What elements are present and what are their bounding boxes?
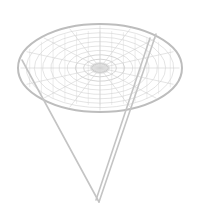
wireframe-cone-figure <box>0 0 202 219</box>
mesh-grid <box>21 25 180 110</box>
cone-edges <box>22 34 156 202</box>
cone-svg <box>0 0 202 219</box>
cone-edge-line <box>99 34 156 202</box>
cone-edge-line <box>22 60 99 202</box>
